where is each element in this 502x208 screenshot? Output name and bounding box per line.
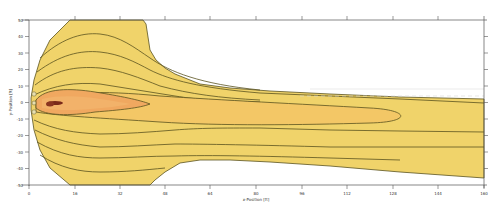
y-axis-label: y-Position [ft]: [8, 88, 13, 115]
svg-text:0: 0: [28, 191, 31, 196]
svg-text:160: 160: [480, 191, 488, 196]
svg-text:144: 144: [434, 191, 442, 196]
contour-chart: 0 16 32 48 64 80 96 112 128 144 160 50 4…: [0, 0, 502, 208]
svg-text:10: 10: [18, 84, 24, 89]
svg-text:16: 16: [72, 191, 78, 196]
svg-text:32: 32: [117, 191, 123, 196]
x-axis-label: x-Position [ft]: [243, 197, 270, 202]
svg-text:-10: -10: [16, 117, 23, 122]
x-tick-labels: 0 16 32 48 64 80 96 112 128 144 160: [28, 191, 489, 196]
svg-text:64: 64: [207, 191, 213, 196]
svg-text:-20: -20: [16, 133, 23, 138]
source-lumps: [32, 92, 36, 114]
svg-text:48: 48: [162, 191, 168, 196]
svg-text:0: 0: [20, 100, 23, 105]
svg-text:20: 20: [18, 67, 24, 72]
svg-text:-50: -50: [16, 183, 23, 188]
svg-text:96: 96: [299, 191, 305, 196]
svg-text:128: 128: [389, 191, 397, 196]
svg-text:-40: -40: [16, 166, 23, 171]
svg-text:30: 30: [18, 51, 24, 56]
svg-text:112: 112: [343, 191, 351, 196]
y-tick-labels: 50 40 30 20 10 0 -10 -20 -30 -40 -50: [16, 18, 23, 188]
svg-text:40: 40: [18, 34, 24, 39]
svg-text:-30: -30: [16, 150, 23, 155]
hot-spot-tail: [46, 102, 54, 107]
svg-text:50: 50: [18, 18, 24, 23]
svg-text:80: 80: [253, 191, 259, 196]
